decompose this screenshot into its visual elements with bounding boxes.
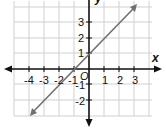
x-tick-label: -3 [39, 74, 49, 86]
x-tick-label: 2 [117, 74, 123, 86]
y-tick-label: 3 [78, 16, 84, 28]
x-tick-label: -4 [24, 74, 34, 86]
y-tick-label: 2 [78, 32, 84, 44]
x-tick-label: -2 [54, 74, 64, 86]
y-axis-label: y [94, 0, 103, 5]
y-tick-labels: 3 2 1 -1 -2 [75, 16, 85, 107]
y-tick-label: 1 [78, 47, 84, 59]
x-axis-label: x [151, 51, 160, 65]
y-tick-label: -2 [75, 95, 85, 107]
y-axis [86, 0, 93, 127]
x-axis-right-arrow-icon [154, 66, 162, 73]
x-tick-label: 3 [132, 74, 138, 86]
origin-label: O [80, 70, 89, 82]
y-axis-down-arrow-icon [86, 119, 93, 127]
x-tick-label: 1 [102, 74, 108, 86]
coordinate-plane: -4 -3 -2 -1 1 2 3 3 2 1 -1 -2 O x y [0, 0, 166, 129]
x-axis-left-arrow-icon [4, 66, 12, 73]
